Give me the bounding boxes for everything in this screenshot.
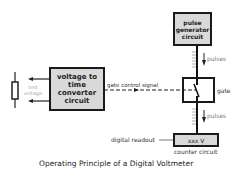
readout-value: xxx V <box>188 137 205 144</box>
gate-block <box>182 77 215 103</box>
pulse-generator-label: pulse generator circuit <box>175 19 210 40</box>
gate-label: gate <box>217 87 231 94</box>
pulses-upper-label: pulses <box>207 55 226 62</box>
converter-label: voltage to time converter circuit <box>55 73 99 105</box>
pulse-generator-block: pulse generator circuit <box>173 12 212 46</box>
gate-control-signal-label: gate control signal <box>107 82 158 88</box>
diagram-title: Operating Principle of a Digital Voltmet… <box>39 159 193 168</box>
digital-readout-label: digital readout <box>111 136 155 143</box>
counter-circuit-label: counter circuit <box>174 148 217 155</box>
voltage-to-time-converter-block: voltage to time converter circuit <box>49 67 105 111</box>
counter-block: xxx V <box>173 133 219 147</box>
test-voltage-label: test voltage <box>22 84 44 96</box>
pulses-lower-label: pulses <box>207 112 226 119</box>
